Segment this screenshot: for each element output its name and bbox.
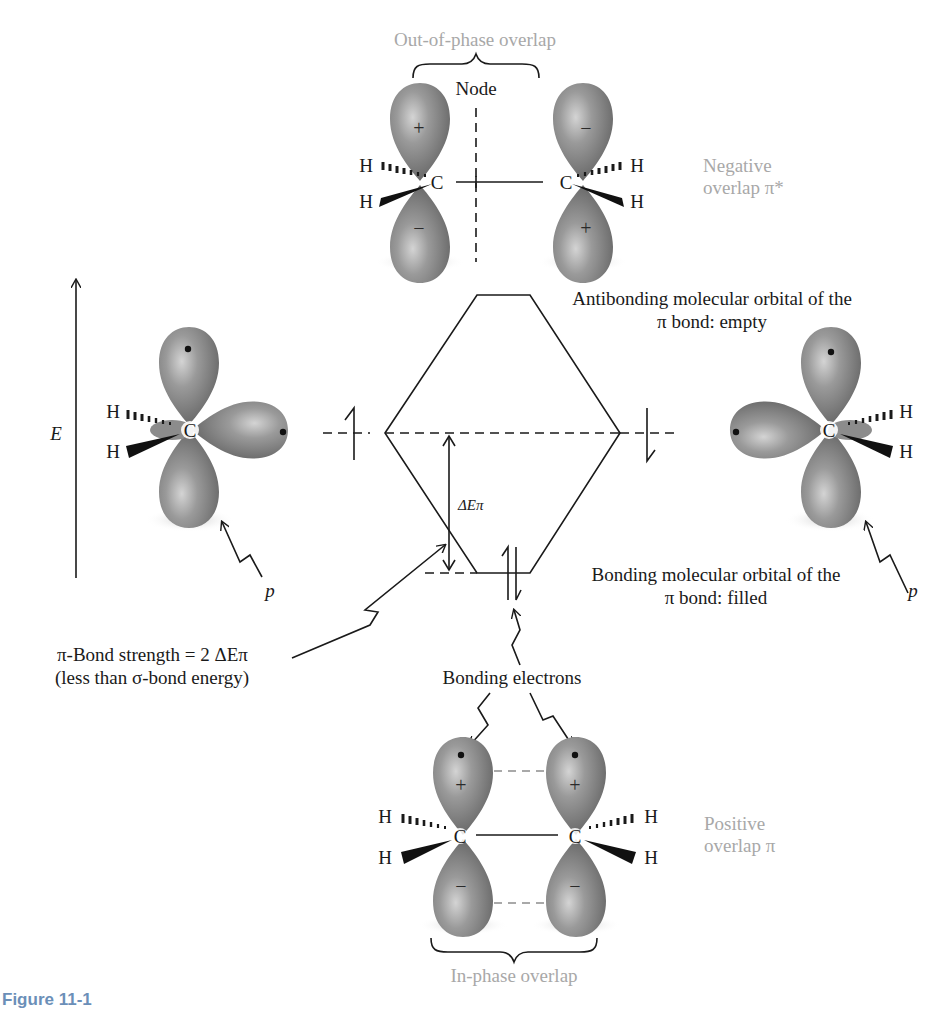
- bonding-overlap-illustration: + − + − C H H C H: [378, 737, 776, 986]
- hydrogen-atom: H: [899, 401, 913, 422]
- electron-dot: [185, 346, 191, 352]
- in-phase-label: In-phase overlap: [450, 965, 577, 986]
- right-p-orbital-illustration: C H H p: [730, 327, 918, 601]
- p-pointer-arrow: [222, 522, 262, 577]
- bonding-electrons-label: Bonding electrons: [443, 667, 582, 688]
- hydrogen-atom: H: [378, 847, 392, 868]
- out-of-phase-label: Out-of-phase overlap: [394, 29, 556, 50]
- bonding-electrons-arrow-right: [530, 693, 572, 745]
- lobe-sign-minus: −: [455, 875, 466, 897]
- figure-caption: Figure 11-1: [0, 990, 945, 1012]
- hydrogen-atom: H: [630, 155, 644, 176]
- wedge-bond: [401, 840, 452, 864]
- electron-dot: [828, 349, 834, 355]
- lobe-sign-minus: −: [413, 217, 424, 239]
- energy-axis: E: [49, 280, 76, 578]
- negative-overlap-label-line1: Negative: [703, 155, 772, 176]
- carbon-atom: C: [560, 172, 573, 193]
- antibonding-overlap-illustration: Out-of-phase overlap Node + − − + C: [359, 29, 784, 283]
- carbon-atom: C: [454, 826, 467, 847]
- bottom-brace: [431, 938, 597, 962]
- carbon-atom: C: [184, 420, 197, 441]
- hashed-bond: [128, 410, 170, 425]
- hydrogen-atom: H: [359, 191, 373, 212]
- hydrogen-atom: H: [106, 401, 120, 422]
- p-label: p: [906, 580, 918, 601]
- bonding-label-line1: Bonding molecular orbital of the: [591, 564, 840, 585]
- lobe-sign-plus: +: [569, 774, 580, 796]
- bond-strength-pointer-arrow: [292, 545, 445, 658]
- bond-strength-line1: π-Bond strength = 2 ΔEπ: [57, 644, 248, 665]
- negative-overlap-label-line2: overlap π*: [703, 177, 784, 198]
- antibonding-label-line2: π bond: empty: [657, 311, 767, 332]
- bonding-label-line2: π bond: filled: [665, 587, 768, 608]
- hashed-bond: [403, 814, 445, 829]
- electron-dot: [733, 429, 739, 435]
- hashed-bond: [590, 814, 632, 829]
- top-brace: [413, 54, 539, 78]
- figure-number: Figure 11-1: [2, 990, 92, 1009]
- electron-dot: [458, 752, 464, 758]
- carbon-atom: C: [569, 826, 582, 847]
- hydrogen-atom: H: [106, 441, 120, 462]
- antibonding-label-line1: Antibonding molecular orbital of the: [572, 288, 852, 309]
- node-label: Node: [455, 78, 496, 99]
- lobe-sign-plus: +: [455, 774, 466, 796]
- bonding-electrons-arrow-left: [470, 693, 490, 745]
- lobe-sign-plus: +: [580, 217, 591, 239]
- bonding-electrons-annotation: Bonding electrons: [443, 610, 582, 745]
- electron-dot: [572, 752, 578, 758]
- hydrogen-atom: H: [630, 191, 644, 212]
- positive-overlap-label-line2: overlap π: [704, 835, 776, 856]
- electron-spin-up: [345, 408, 354, 460]
- pi-bond-orbital-diagram: Out-of-phase overlap Node + − − + C: [0, 0, 945, 1012]
- mo-correlation-lines: [385, 295, 620, 573]
- hydrogen-atom: H: [644, 806, 658, 827]
- left-p-orbital-illustration: C H H p: [106, 327, 288, 601]
- lobe-sign-plus: +: [413, 117, 424, 139]
- energy-axis-label: E: [49, 423, 62, 444]
- hashed-bond: [849, 410, 891, 425]
- p-label: p: [263, 580, 275, 601]
- hydrogen-atom: H: [644, 847, 658, 868]
- lobe-sign-minus: −: [580, 117, 591, 139]
- bond-strength-annotation: π-Bond strength = 2 ΔEπ (less than σ-bon…: [55, 545, 445, 689]
- electron-spin-down: [647, 408, 655, 461]
- lobe-sign-minus: −: [569, 875, 580, 897]
- hydrogen-atom: H: [359, 155, 373, 176]
- carbon-atom: C: [431, 172, 444, 193]
- p-pointer-arrow: [866, 522, 908, 593]
- bonding-electrons-arrow-up: [512, 610, 520, 665]
- positive-overlap-label-line1: Positive: [704, 813, 765, 834]
- carbon-atom: C: [823, 420, 836, 441]
- delta-e-label: ΔEπ: [457, 497, 484, 513]
- electron-dot: [280, 429, 286, 435]
- bond-strength-line2: (less than σ-bond energy): [55, 667, 249, 689]
- hydrogen-atom: H: [899, 441, 913, 462]
- hydrogen-atom: H: [378, 806, 392, 827]
